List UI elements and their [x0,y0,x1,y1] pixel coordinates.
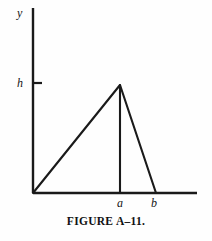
triangle-rising-edge [33,85,120,193]
y-axis-label: y [17,7,22,19]
height-tick-label: h [17,77,23,89]
x-tick-label-a: a [117,197,123,209]
figure-container: y h a b FIGURE A–11. [0,0,212,241]
triangle-falling-edge [120,85,156,193]
triangle-plot [0,0,212,241]
x-tick-label-b: b [151,197,157,209]
figure-caption: FIGURE A–11. [0,215,212,227]
